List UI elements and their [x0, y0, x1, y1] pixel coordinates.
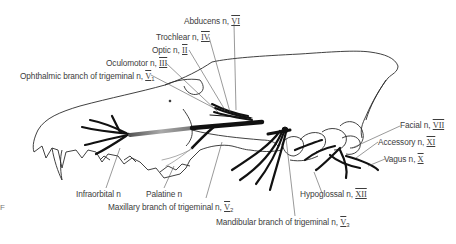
label-trochlear: Trochlear n, IV	[156, 32, 210, 42]
roman-numeral: VI	[231, 16, 240, 26]
label-maxillary: Maxillary branch of trigeminal n, V2	[108, 202, 233, 215]
label-accessory: Accessory n, XI	[378, 137, 435, 147]
label-text: Optic n,	[152, 45, 180, 55]
roman-numeral: IV	[201, 32, 210, 42]
label-text: Ophthalmic branch of trigeminal n,	[20, 71, 143, 81]
roman-numeral: XII	[355, 189, 367, 199]
roman-numeral: XI	[427, 137, 436, 147]
label-text: Oculomotor n,	[106, 58, 157, 68]
subscript: 1	[151, 76, 154, 82]
label-text: Hypoglossal n,	[300, 189, 353, 199]
label-optic: Optic n, II	[152, 45, 187, 55]
label-vagus: Vagus n, X	[384, 154, 424, 164]
label-palatine: Palatine n	[146, 189, 182, 199]
label-mandibular: Mandibular branch of trigeminal n, V3	[216, 217, 350, 230]
roman-numeral: III	[159, 58, 167, 68]
nerves	[82, 104, 378, 190]
roman-numeral: VII	[433, 120, 445, 130]
subscript: 3	[346, 222, 349, 228]
label-text: Infraorbital n	[76, 189, 121, 199]
subscript: 2	[230, 207, 233, 213]
label-text: Abducens n,	[184, 16, 229, 26]
label-ophthalmic: Ophthalmic branch of trigeminal n, V1	[20, 71, 154, 84]
label-facial: Facial n, VII	[400, 120, 444, 130]
label-text: Facial n,	[400, 120, 430, 130]
label-text: Mandibular branch of trigeminal n,	[216, 217, 338, 227]
label-oculomotor: Oculomotor n, III	[106, 58, 167, 68]
roman-numeral: II	[182, 45, 187, 55]
label-abducens: Abducens n, VI	[184, 16, 240, 26]
roman-numeral: X	[418, 154, 424, 164]
label-text: Accessory n,	[378, 137, 424, 147]
edge-mark: F	[0, 203, 5, 212]
label-infraorbital: Infraorbital n	[76, 189, 121, 199]
label-hypoglossal: Hypoglossal n, XII	[300, 189, 367, 199]
label-text: Palatine n	[146, 189, 182, 199]
label-text: Trochlear n,	[156, 32, 199, 42]
label-text: Maxillary branch of trigeminal n,	[108, 202, 222, 212]
label-text: Vagus n,	[384, 154, 415, 164]
